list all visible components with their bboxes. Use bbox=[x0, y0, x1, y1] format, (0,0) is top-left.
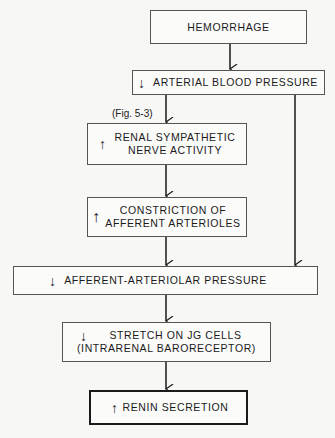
node-label-line1: RENAL SYMPATHETIC bbox=[115, 131, 236, 143]
figure-reference: (Fig. 5-3) bbox=[112, 108, 153, 119]
node-label: CONSTRICTION OF AFFERENT ARTERIOLES bbox=[105, 204, 240, 230]
node-stretch-jg-cells: ↓ STRETCH ON JG CELLS (INTRARENAL BARORE… bbox=[62, 322, 271, 362]
node-label: ARTERIAL BLOOD PRESSURE bbox=[153, 76, 318, 89]
decrease-arrow-icon: ↓ bbox=[138, 76, 145, 90]
node-label: STRETCH ON JG CELLS (INTRARENAL BARORECE… bbox=[77, 329, 256, 355]
decrease-arrow-icon: ↓ bbox=[49, 274, 56, 288]
node-constriction: ↑ CONSTRICTION OF AFFERENT ARTERIOLES bbox=[87, 197, 247, 237]
node-label-line2: (INTRARENAL BARORECEPTOR) bbox=[77, 342, 256, 354]
increase-arrow-icon: ↑ bbox=[92, 209, 100, 225]
node-label: HEMORRHAGE bbox=[187, 21, 269, 34]
node-label: RENIN SECRETION bbox=[123, 401, 229, 414]
node-arterial-blood-pressure: ↓ ARTERIAL BLOOD PRESSURE bbox=[132, 70, 325, 95]
node-label-line2: NERVE ACTIVITY bbox=[128, 144, 222, 156]
increase-arrow-icon: ↑ bbox=[111, 401, 118, 415]
node-label-line1: CONSTRICTION OF bbox=[120, 204, 226, 216]
node-renin-secretion: ↑ RENIN SECRETION bbox=[89, 390, 248, 425]
node-label: AFFERENT-ARTERIOLAR PRESSURE bbox=[64, 274, 267, 287]
node-renal-sympathetic: ↑ RENAL SYMPATHETIC NERVE ACTIVITY bbox=[87, 123, 247, 165]
node-afferent-arteriolar-pressure: ↓ AFFERENT-ARTERIOLAR PRESSURE bbox=[13, 266, 318, 295]
node-label: RENAL SYMPATHETIC NERVE ACTIVITY bbox=[115, 131, 236, 157]
decrease-arrow-icon: ↓ bbox=[80, 329, 87, 343]
node-label-line2: AFFERENT ARTERIOLES bbox=[105, 217, 240, 229]
node-hemorrhage: HEMORRHAGE bbox=[150, 10, 307, 44]
node-label-line1: STRETCH ON JG CELLS bbox=[91, 329, 241, 341]
increase-arrow-icon: ↑ bbox=[99, 137, 106, 151]
